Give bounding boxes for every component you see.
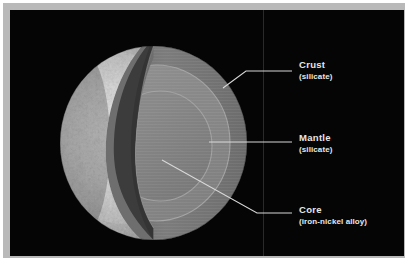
vertical-guide-line — [263, 10, 264, 256]
label-mantle: Mantle (silicate) — [299, 132, 332, 155]
label-core-subtitle: (iron-nickel alloy) — [299, 216, 367, 227]
label-crust-subtitle: (silicate) — [299, 71, 332, 82]
figure-canvas: Crust (silicate) Mantle (silicate) Core … — [0, 0, 410, 263]
space-background: Crust (silicate) Mantle (silicate) Core … — [10, 10, 404, 256]
label-crust-title: Crust — [299, 59, 332, 70]
label-crust: Crust (silicate) — [299, 59, 332, 82]
label-mantle-title: Mantle — [299, 132, 332, 143]
label-core-title: Core — [299, 204, 367, 215]
label-mantle-subtitle: (silicate) — [299, 144, 332, 155]
figure-frame: Crust (silicate) Mantle (silicate) Core … — [3, 3, 405, 258]
planet-cutaway-illustration — [60, 46, 247, 240]
label-core: Core (iron-nickel alloy) — [299, 204, 367, 227]
